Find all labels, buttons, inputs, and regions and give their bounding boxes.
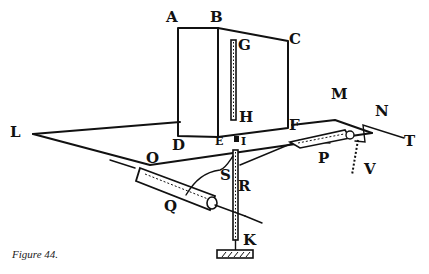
label-g: G — [238, 36, 251, 54]
label-c: C — [289, 30, 301, 48]
label-k: K — [243, 231, 257, 249]
label-v: V — [363, 160, 376, 178]
figure-caption: Figure 44. — [11, 248, 58, 260]
label-f: F — [289, 116, 300, 134]
plane-back-edge — [292, 120, 372, 133]
label-m: M — [331, 85, 348, 103]
label-p: P — [318, 149, 329, 167]
label-h: H — [239, 108, 253, 126]
label-a: A — [165, 8, 178, 26]
label-n: N — [375, 102, 389, 120]
dotted-line-v — [352, 140, 358, 175]
label-d: D — [172, 136, 185, 154]
figure-44-diagram: A B C G H F D E I L M N O P T V S R Q K … — [0, 0, 429, 274]
rod-gh — [231, 40, 236, 120]
label-b: B — [210, 8, 223, 26]
base-plate — [217, 250, 253, 258]
label-o: O — [146, 149, 159, 167]
label-i: I — [241, 135, 246, 148]
label-l: L — [10, 123, 21, 141]
label-q: Q — [164, 197, 177, 215]
label-t: T — [404, 132, 416, 150]
label-r: R — [238, 177, 251, 195]
label-s: S — [220, 166, 231, 184]
label-e: E — [215, 135, 223, 148]
plane-outline — [33, 122, 180, 134]
